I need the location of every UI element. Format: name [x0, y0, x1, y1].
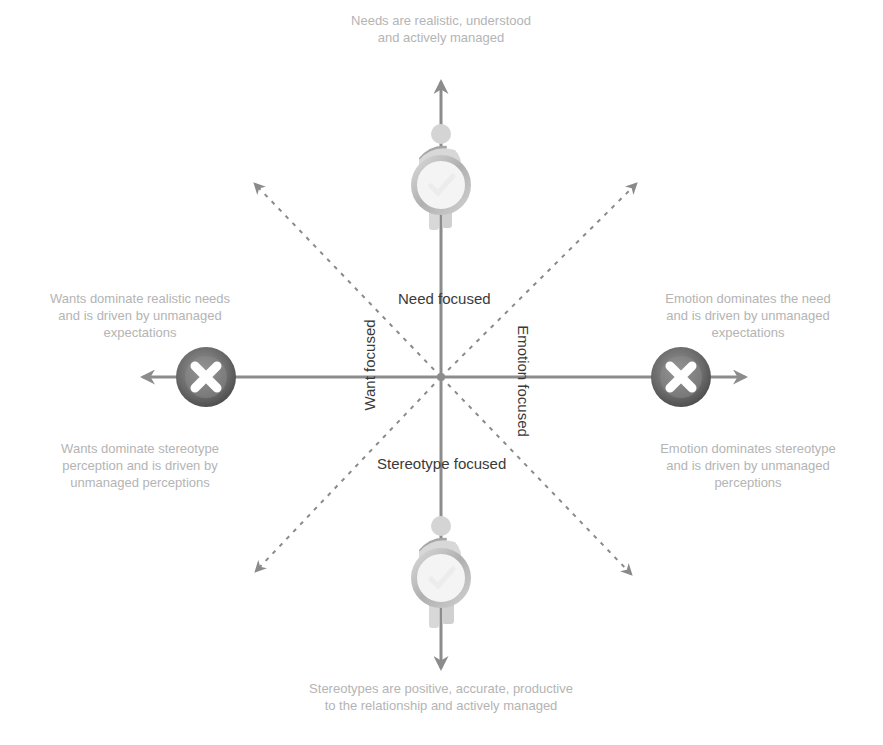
diagram-canvas: [0, 0, 883, 745]
quadrant-diagram: Needs are realistic, understood and acti…: [0, 0, 883, 745]
caption-right-upper: Emotion dominates the need and is driven…: [628, 290, 868, 341]
cross-mark-icon: [176, 347, 236, 407]
diagonal-arrow-bottom-left: [256, 377, 441, 571]
label-need-focused: Need focused: [398, 290, 491, 308]
person-with-checkmark-icon: [414, 124, 468, 230]
label-want-focused: Want focused: [361, 315, 379, 415]
caption-bottom: Stereotypes are positive, accurate, prod…: [271, 680, 611, 714]
caption-top: Needs are realistic, understood and acti…: [311, 12, 571, 46]
label-stereotype-focused: Stereotype focused: [377, 455, 506, 473]
diagonal-axes: [255, 184, 636, 574]
diagonal-arrow-top-right: [441, 184, 636, 377]
label-emotion-focused: Emotion focused: [514, 316, 532, 446]
diagonal-arrow-top-left: [255, 184, 441, 377]
center-point: [437, 373, 445, 381]
caption-left-upper: Wants dominate realistic needs and is dr…: [20, 290, 260, 341]
caption-right-lower: Emotion dominates stereotype and is driv…: [628, 440, 868, 491]
cross-mark-icon: [651, 347, 711, 407]
caption-left-lower: Wants dominate stereotype perception and…: [20, 440, 260, 491]
diagonal-arrow-bottom-right: [441, 377, 631, 574]
